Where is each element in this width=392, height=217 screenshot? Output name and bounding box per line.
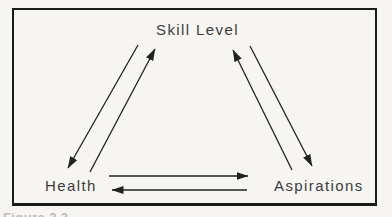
node-health: Health [45,178,97,194]
arrow-health-to-skill [90,49,155,172]
arrow-skill-to-health [68,45,138,168]
node-skill-level: Skill Level [156,22,239,38]
node-aspirations: Aspirations [274,178,364,194]
scanned-page-figure: Skill Level Health Aspirations Figure 2.… [0,0,392,217]
figure-caption-fragment: Figure 2.3 [3,210,68,217]
